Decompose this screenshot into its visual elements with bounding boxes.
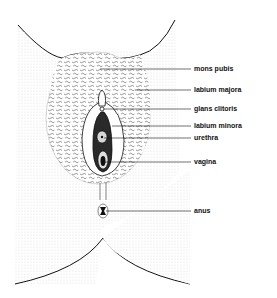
label-anus: anus [194, 207, 210, 215]
label-mons-pubis: mons pubis [194, 65, 233, 73]
vulva-anatomy-illustration [0, 0, 277, 298]
label-glans-clitoris: glans clitoris [194, 105, 237, 113]
label-labium-minora: labium minora [194, 122, 242, 130]
label-labium-majora: labium majora [194, 86, 241, 94]
label-vagina: vagina [194, 158, 216, 166]
glans-clitoris [100, 107, 104, 111]
label-urethra: urethra [194, 134, 218, 142]
